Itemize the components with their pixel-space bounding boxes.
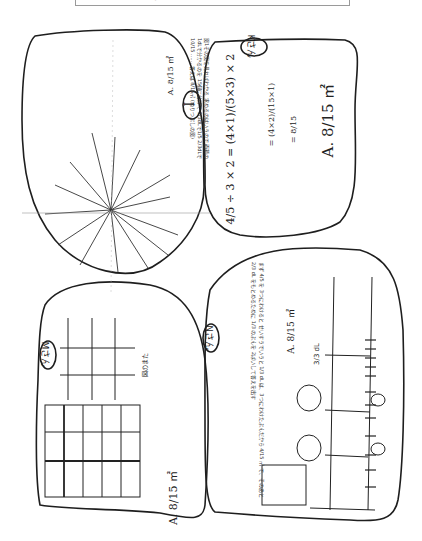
worksheet-scan: g — [0, 0, 422, 541]
solution-k-answer: A. 8/15 ㎡ — [316, 84, 337, 158]
solution-m-outline — [36, 282, 208, 518]
solution-i-answer: A. 8/15 ㎡ — [164, 56, 175, 95]
solution-k-step-1: 4/5 ÷ 3 × 2 = (4×1)/(5×3) × 2 — [224, 85, 237, 225]
solution-n-explanation: まず 4/5 を 3つにわけると せいすうでいうと 1/3 dL は、3つにわけ… — [218, 262, 266, 502]
solution-m-answer: A. 8/15 ㎡ — [164, 471, 180, 525]
solution-m-grid — [45, 405, 140, 497]
solution-n-label: Nさん — [203, 325, 216, 350]
solution-m-table-note: 図のまた — [140, 353, 149, 377]
solution-m-table — [60, 318, 135, 400]
solution-k-step-3: = 8/15 — [289, 116, 298, 143]
solution-n-number-line — [262, 277, 385, 510]
solution-n-answer: A. 8/15 ㎡ — [284, 309, 297, 353]
solution-m-label: Mさん — [39, 342, 52, 368]
solution-k-label: Kさん — [245, 35, 258, 59]
solution-n-number-line-label: 3/3 dL — [313, 343, 321, 365]
worksheet-drawing — [0, 0, 422, 541]
caption-box: g — [75, 0, 350, 6]
solution-k-step-2: = (4×2)/(15×1) — [267, 83, 276, 146]
